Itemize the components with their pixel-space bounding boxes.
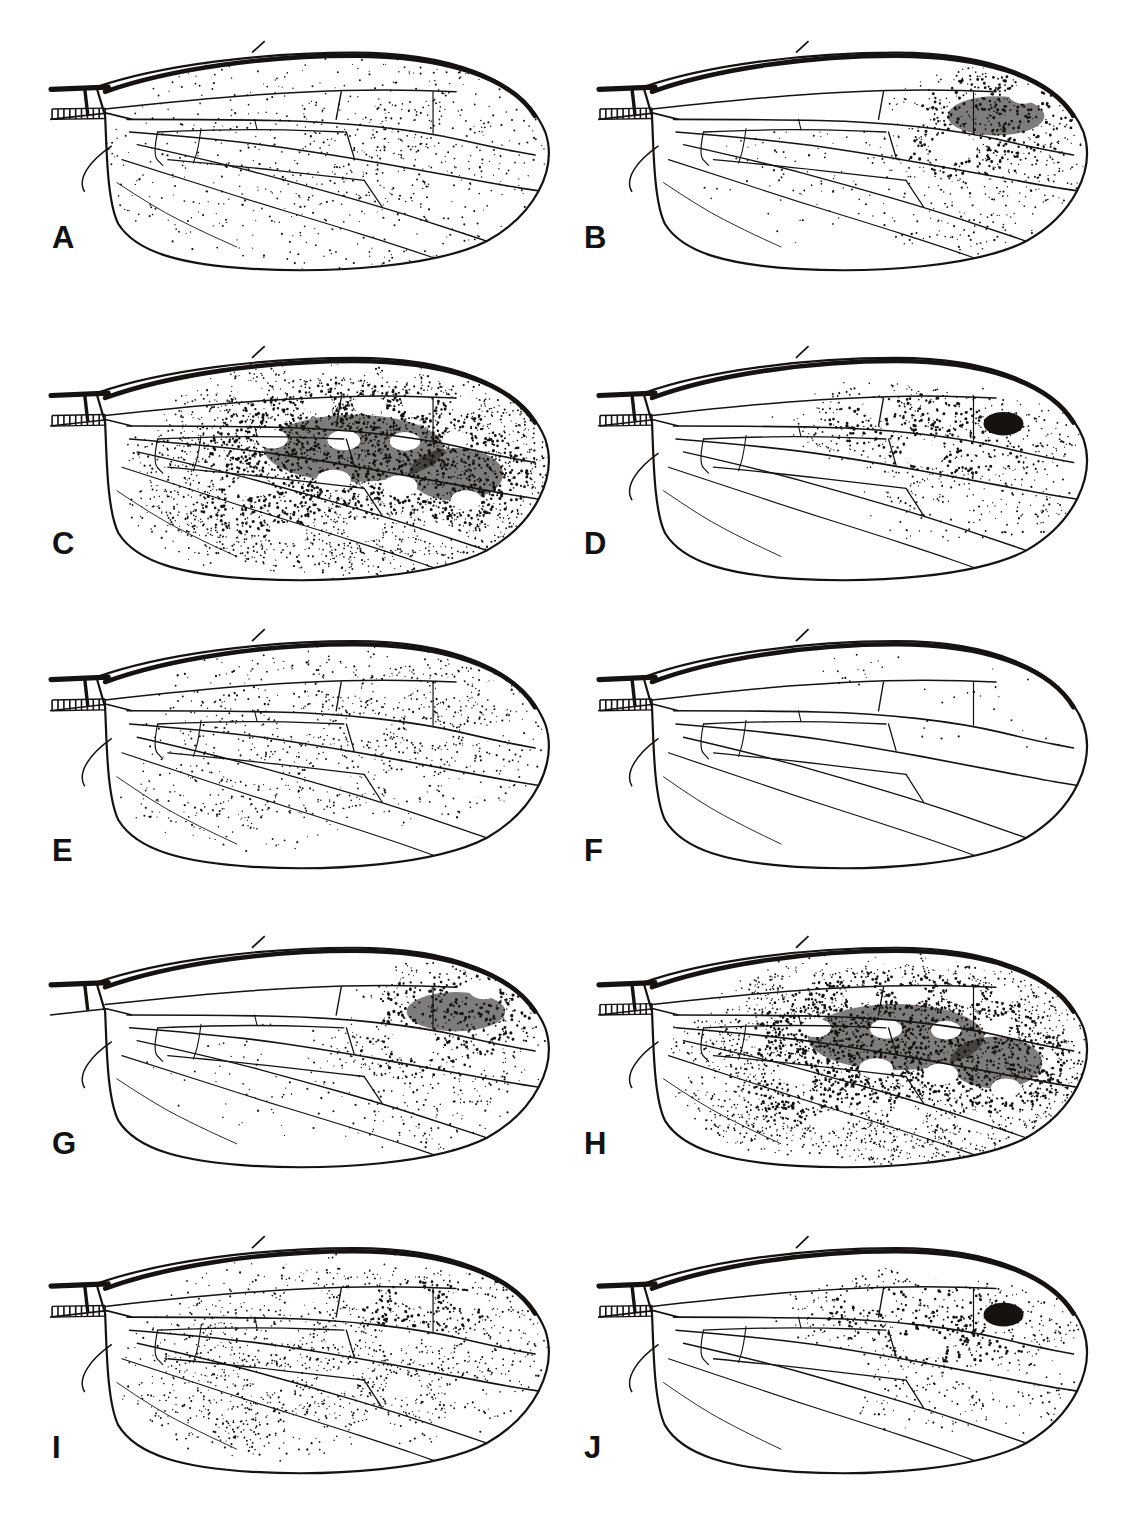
vein <box>704 437 887 439</box>
panel-label-i: I <box>52 1432 61 1463</box>
humeral-crossvein <box>85 984 88 1010</box>
vein <box>117 183 237 247</box>
costal-bristle-nick <box>796 346 809 358</box>
hyaline-window <box>254 1367 291 1389</box>
hyaline-window <box>907 372 940 392</box>
hyaline-window <box>285 1417 322 1438</box>
panel-label-j: J <box>584 1432 601 1463</box>
hyaline-window <box>862 398 895 419</box>
basal-costal-bar <box>51 393 108 395</box>
hyaline-window <box>378 1328 413 1349</box>
costal-bristle-nick <box>252 346 265 358</box>
vein <box>714 467 907 488</box>
wing-drawing <box>596 1235 1096 1473</box>
pigmentation-stipple <box>127 356 551 580</box>
wing-figure-a <box>48 40 558 270</box>
pigmentation-stipple <box>122 1244 548 1461</box>
hyaline-window <box>449 1291 478 1308</box>
hyaline-window <box>389 1377 422 1397</box>
hyaline-window <box>862 1289 895 1310</box>
vein <box>117 777 237 844</box>
hyaline-window <box>902 1331 946 1359</box>
vein <box>168 1056 364 1077</box>
hyaline-window <box>399 1287 432 1307</box>
hyaline-window <box>801 1019 831 1038</box>
costal-bristle-nick <box>796 629 809 641</box>
costal-bristle-nick <box>252 629 265 641</box>
hyaline-window <box>1009 84 1039 103</box>
hyaline-window <box>257 430 288 449</box>
hyaline-window <box>469 980 500 999</box>
vein <box>664 1383 782 1450</box>
wing-outline <box>644 358 1087 580</box>
vein <box>117 491 237 557</box>
vein <box>336 987 341 1015</box>
hyaline-window <box>270 523 305 544</box>
vein <box>105 90 456 109</box>
hyaline-window <box>956 372 982 387</box>
wing-drawing <box>596 628 1096 868</box>
wing-drawing <box>596 345 1096 580</box>
hyaline-window <box>343 1285 380 1307</box>
wing-figure-f <box>596 628 1096 868</box>
vein <box>684 737 1034 840</box>
panel-label-a: A <box>52 222 74 253</box>
basal-costal-bar <box>599 983 655 985</box>
basal-posterior-vein <box>50 1009 132 1015</box>
basal-costal-bar <box>599 1284 655 1286</box>
hyaline-window <box>383 475 418 497</box>
costal-bristle-nick <box>796 41 809 53</box>
hyaline-window <box>446 1383 477 1402</box>
vein <box>664 183 782 247</box>
vein <box>336 92 341 120</box>
vein <box>704 130 887 132</box>
vein <box>879 92 884 120</box>
costal-bristle-nick <box>252 41 265 53</box>
hyaline-window <box>261 813 304 837</box>
vein <box>714 160 907 181</box>
basal-costal-bar <box>599 677 655 679</box>
costal-bristle-nick <box>252 936 265 948</box>
vein <box>889 724 897 750</box>
vein <box>336 1289 341 1318</box>
wing-outline <box>96 53 548 271</box>
vein <box>664 491 782 557</box>
hyaline-window <box>306 764 351 790</box>
wing-drawing <box>596 40 1096 270</box>
vein <box>158 1025 344 1027</box>
hyaline-window <box>266 1324 299 1344</box>
hyaline-window <box>992 986 1020 1003</box>
hyaline-window <box>814 1110 848 1130</box>
costal-bristle-nick <box>796 1236 809 1248</box>
wing-drawing <box>48 935 558 1167</box>
vein <box>684 145 1034 244</box>
hyaline-window <box>390 432 421 451</box>
hyaline-window <box>389 1029 437 1058</box>
vein <box>889 132 897 157</box>
vein <box>684 452 1034 553</box>
wing-figure-e <box>48 628 558 868</box>
hyaline-window <box>782 976 810 992</box>
vein <box>652 1287 996 1307</box>
hyaline-window <box>991 1078 1021 1097</box>
wing-figure-h <box>596 935 1096 1167</box>
wing-venation <box>105 1287 537 1461</box>
costal-bristle-nick <box>796 936 809 948</box>
hyaline-window <box>285 1282 322 1304</box>
basal-costal-bar <box>51 1284 108 1286</box>
hyaline-window <box>894 104 929 127</box>
hyaline-window <box>946 987 976 1005</box>
hyaline-window <box>430 1418 463 1438</box>
vein <box>117 1079 237 1144</box>
pigmentation-stipple <box>704 67 1089 255</box>
panel-label-c: C <box>52 528 74 559</box>
panel-label-h: H <box>584 1128 606 1159</box>
vein <box>714 1359 907 1380</box>
costal-bristle-nick <box>252 1236 265 1248</box>
hyaline-window <box>262 670 303 694</box>
costal-margin-vein <box>105 56 535 116</box>
wing-venation <box>652 680 1076 856</box>
basal-costal-bar <box>599 87 655 89</box>
hyaline-window <box>436 677 467 696</box>
wing-figure-c <box>48 345 558 580</box>
